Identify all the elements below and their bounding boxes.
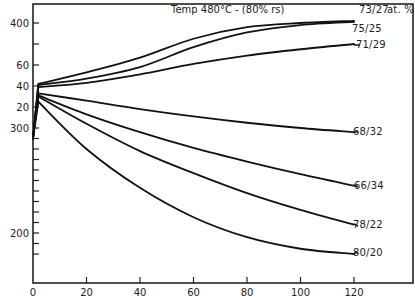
series-label-80-20: 80/20 <box>353 248 383 258</box>
series-label-78-22: 78/22 <box>353 220 383 230</box>
y-tick-label: 200 <box>10 228 29 239</box>
series-line-68-32 <box>33 93 354 138</box>
y-tick-label: 20 <box>16 102 29 113</box>
series-label-68-32: 68/32 <box>353 127 383 137</box>
x-tick-label: 120 <box>344 287 363 298</box>
y-tick-label: 60 <box>16 60 29 71</box>
series-label-73-27: 73/27 <box>359 5 389 15</box>
chart-title: Temp 480°C - (80% rs) <box>171 4 284 15</box>
x-tick-label: 80 <box>241 287 254 298</box>
y-tick-label: 300 <box>10 123 29 134</box>
unit-label: at. % <box>387 5 414 15</box>
x-tick-label: 0 <box>30 287 36 298</box>
series-label-66-34: 66/34 <box>354 181 384 191</box>
series-label-71-29: 71/29 <box>356 40 386 50</box>
x-tick-label: 40 <box>134 287 147 298</box>
y-tick-label: 400 <box>10 18 29 29</box>
series-line-80-20 <box>33 102 354 254</box>
x-tick-label: 100 <box>291 287 310 298</box>
series-line-71-29 <box>33 44 354 139</box>
y-tick-label: 40 <box>16 81 29 92</box>
x-tick-label: 20 <box>80 287 93 298</box>
series-label-75-25: 75/25 <box>352 24 382 34</box>
x-tick-label: 60 <box>187 287 200 298</box>
